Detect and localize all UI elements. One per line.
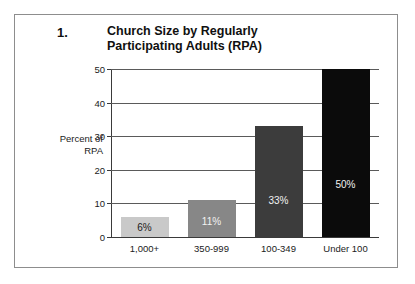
bar-value-label: 6% xyxy=(121,222,169,233)
y-tick-label: 20 xyxy=(94,164,105,175)
bar-value-label: 33% xyxy=(255,195,303,206)
y-tick-label: 0 xyxy=(100,232,105,243)
bar[interactable]: 33% xyxy=(255,126,303,237)
y-axis-title: Percent of RPA xyxy=(25,133,103,157)
y-tick-label: 40 xyxy=(94,97,105,108)
y-tick-label: 50 xyxy=(94,64,105,75)
y-axis-line xyxy=(111,69,112,238)
x-tick-label: 350-999 xyxy=(178,243,245,254)
bar[interactable]: 6% xyxy=(121,217,169,237)
figure-card: 1. Church Size by Regularly Participatin… xyxy=(14,14,398,268)
y-axis-title-line-2: RPA xyxy=(25,145,103,157)
y-tick-mark xyxy=(107,103,111,104)
bar-chart: Percent of RPA 01020304050 6%11%33%50% 1… xyxy=(15,15,399,269)
y-tick-mark xyxy=(107,170,111,171)
bar[interactable]: 50% xyxy=(322,69,370,237)
y-tick-mark xyxy=(107,136,111,137)
bar-value-label: 11% xyxy=(188,216,236,227)
y-axis-title-line-1: Percent of xyxy=(25,133,103,145)
x-tick-label: 100-349 xyxy=(245,243,312,254)
x-tick-label: 1,000+ xyxy=(111,243,178,254)
y-tick-mark xyxy=(107,69,111,70)
y-tick-mark xyxy=(107,203,111,204)
x-axis-line xyxy=(111,237,379,238)
plot-area: 01020304050 6%11%33%50% xyxy=(111,69,379,237)
y-tick-label: 10 xyxy=(94,198,105,209)
y-tick-label: 30 xyxy=(94,131,105,142)
bar[interactable]: 11% xyxy=(188,200,236,237)
x-tick-label: Under 100 xyxy=(312,243,379,254)
bar-value-label: 50% xyxy=(322,179,370,190)
y-tick-mark xyxy=(107,237,111,238)
